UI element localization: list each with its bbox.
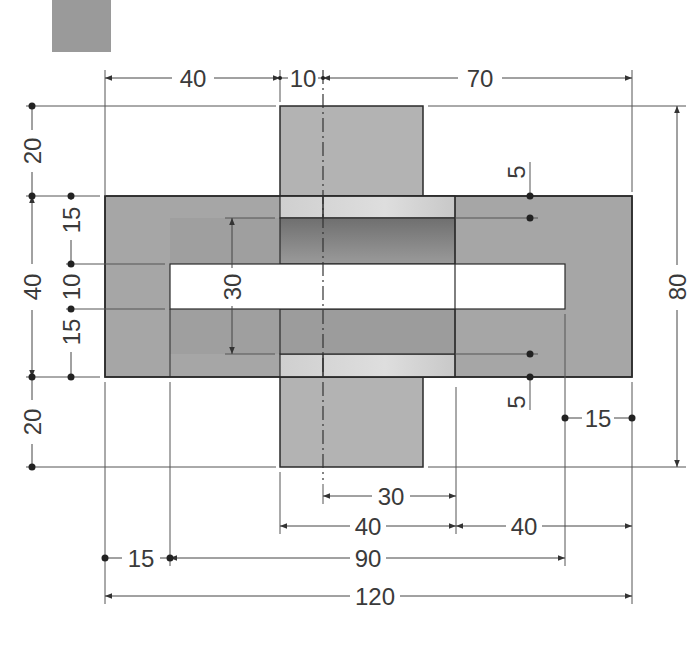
dim-bottom-40-left: 40 (355, 513, 382, 540)
lower-bar (280, 309, 455, 354)
lower-light-strip (280, 354, 455, 377)
dim-bottom-15: 15 (128, 545, 155, 572)
dim-left-10: 10 (58, 274, 85, 301)
technical-drawing: 40 10 70 20 40 20 15 10 15 30 80 5 5 15 … (0, 0, 693, 648)
plate-inner-left-top (170, 218, 280, 264)
dim-bottom-30: 30 (378, 483, 405, 510)
dim-left-20-top: 20 (19, 138, 46, 165)
dim-inner-30: 30 (219, 274, 246, 301)
dim-right-5-bottom: 5 (503, 395, 530, 408)
dim-bottom-40-right: 40 (511, 513, 538, 540)
dim-left-20-bottom: 20 (19, 409, 46, 436)
upper-light-strip (280, 196, 455, 218)
dim-right-80: 80 (664, 274, 691, 301)
dim-top-40: 40 (180, 65, 207, 92)
dim-left-15-bottom: 15 (58, 319, 85, 346)
part-geometry (105, 70, 632, 480)
dim-bottom-90: 90 (355, 545, 382, 572)
upper-dark-bar (280, 218, 455, 264)
dim-top-10: 10 (290, 65, 317, 92)
dim-left-15-top: 15 (58, 207, 85, 234)
dim-top-70: 70 (467, 65, 494, 92)
plate-inner-left-bottom (170, 309, 280, 354)
dim-bottom-120: 120 (355, 583, 395, 610)
dim-left-40: 40 (19, 274, 46, 301)
dim-right-5-top: 5 (503, 165, 530, 178)
dim-right-15: 15 (585, 405, 612, 432)
